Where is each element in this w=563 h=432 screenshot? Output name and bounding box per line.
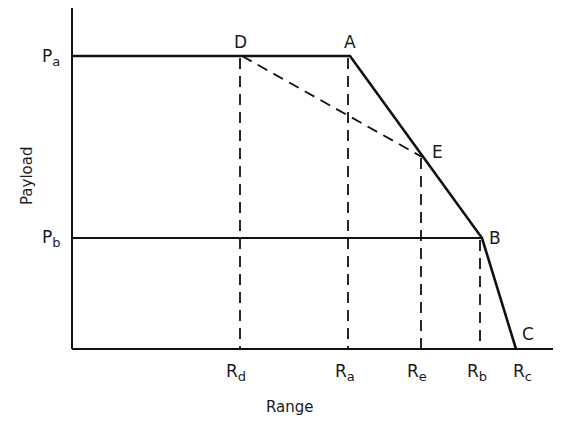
point-label-a: A	[344, 32, 356, 52]
point-label-d: D	[234, 32, 247, 52]
payload-range-diagram: D A E B C Pa Pb Rd Ra Re Rb Rc Range Pay…	[0, 0, 563, 432]
svg-text:Re: Re	[407, 361, 427, 384]
y-axis-title: Payload	[18, 147, 36, 206]
svg-text:Pb: Pb	[42, 227, 61, 250]
point-label-c: C	[522, 324, 534, 344]
svg-text:Rd: Rd	[226, 361, 246, 384]
x-axis-title: Range	[266, 398, 314, 416]
svg-text:Ra: Ra	[335, 361, 355, 384]
y-tick-pb: Pb	[42, 227, 61, 250]
envelope-line	[72, 56, 516, 349]
svg-text:Pa: Pa	[42, 46, 60, 69]
dashed-d-e	[242, 56, 422, 157]
x-tick-ra: Ra	[335, 361, 355, 384]
x-tick-rb: Rb	[467, 361, 487, 384]
y-tick-pa: Pa	[42, 46, 60, 69]
svg-text:Rc: Rc	[513, 361, 532, 384]
x-tick-rc: Rc	[513, 361, 532, 384]
svg-text:Rb: Rb	[467, 361, 487, 384]
x-tick-re: Re	[407, 361, 427, 384]
x-tick-rd: Rd	[226, 361, 246, 384]
point-label-e: E	[432, 142, 443, 162]
point-label-b: B	[489, 228, 501, 248]
